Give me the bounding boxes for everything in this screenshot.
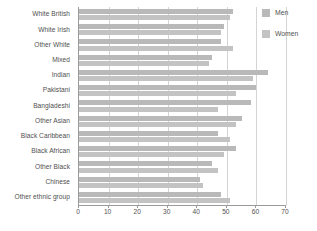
bar-women xyxy=(79,46,233,51)
category-label: Other ethnic group xyxy=(0,190,74,205)
x-axis-tick-label: 60 xyxy=(252,209,259,216)
men-swatch xyxy=(262,9,270,17)
bar-group xyxy=(79,7,285,22)
category-label: White British xyxy=(0,7,74,22)
category-label: Other White xyxy=(0,37,74,52)
bar-men xyxy=(79,39,221,44)
category-label: Pakistani xyxy=(0,83,74,98)
category-label: Other Black xyxy=(0,159,74,174)
bar-group xyxy=(79,114,285,129)
bar-group xyxy=(79,22,285,37)
bar-group xyxy=(79,83,285,98)
bar-group xyxy=(79,159,285,174)
category-label: Black Caribbean xyxy=(0,129,74,144)
category-label: White Irish xyxy=(0,22,74,37)
bar-group xyxy=(79,144,285,159)
bar-group xyxy=(79,175,285,190)
bar-men xyxy=(79,100,251,105)
x-axis-tick-label: 30 xyxy=(163,209,170,216)
bar-women xyxy=(79,15,230,20)
bar-men xyxy=(79,177,200,182)
x-axis-tick-label: 70 xyxy=(281,209,288,216)
bar-women xyxy=(79,183,203,188)
category-label: Other Asian xyxy=(0,114,74,129)
women-swatch xyxy=(262,30,270,38)
bar-group xyxy=(79,190,285,205)
bar-women xyxy=(79,76,253,81)
x-axis-line xyxy=(78,205,285,206)
bar-men xyxy=(79,192,221,197)
category-label: Indian xyxy=(0,68,74,83)
category-label: Mixed xyxy=(0,53,74,68)
legend-item: Men xyxy=(262,9,298,17)
x-axis-tick-label: 10 xyxy=(104,209,111,216)
bar-women xyxy=(79,61,209,66)
bar-women xyxy=(79,152,224,157)
x-axis-tick-label: 50 xyxy=(222,209,229,216)
bar-men xyxy=(79,55,212,60)
bar-group xyxy=(79,37,285,52)
bar-men xyxy=(79,85,256,90)
bar-women xyxy=(79,30,221,35)
x-axis-tick-label: 40 xyxy=(193,209,200,216)
bar-series-container xyxy=(79,7,285,205)
bar-men xyxy=(79,161,212,166)
category-label: Bangladeshi xyxy=(0,98,74,113)
legend-label: Men xyxy=(275,10,288,17)
bar-group xyxy=(79,129,285,144)
bar-women xyxy=(79,91,236,96)
bar-group xyxy=(79,68,285,83)
x-axis-tick-label: 0 xyxy=(76,209,80,216)
plot-area xyxy=(78,7,285,205)
chart-legend: MenWomen xyxy=(262,9,298,38)
bar-women xyxy=(79,137,230,142)
category-label: Chinese xyxy=(0,175,74,190)
x-axis-tick-label: 20 xyxy=(133,209,140,216)
bar-women xyxy=(79,107,218,112)
bar-women xyxy=(79,168,218,173)
bar-women xyxy=(79,198,230,203)
category-label: Black African xyxy=(0,144,74,159)
bar-men xyxy=(79,116,242,121)
bar-men xyxy=(79,131,218,136)
bar-group xyxy=(79,98,285,113)
bar-men xyxy=(79,24,224,29)
grouped-bar-chart: White BritishWhite IrishOther WhiteMixed… xyxy=(0,0,317,231)
legend-label: Women xyxy=(275,31,298,38)
bar-group xyxy=(79,53,285,68)
bar-men xyxy=(79,9,233,14)
bar-men xyxy=(79,146,236,151)
category-axis: White BritishWhite IrishOther WhiteMixed… xyxy=(0,7,74,205)
bar-men xyxy=(79,70,268,75)
bar-women xyxy=(79,122,236,127)
legend-item: Women xyxy=(262,30,298,38)
